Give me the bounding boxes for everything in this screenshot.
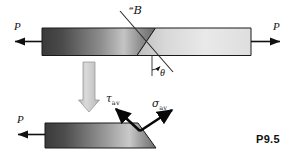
mechanics-figure-svg [0, 0, 295, 159]
label-tau-av: τav [106, 93, 120, 107]
top-bar-right-segment [137, 28, 251, 56]
bottom-bar-segment [45, 123, 156, 148]
label-theta: θ [160, 68, 165, 78]
label-force-right-top: P [273, 21, 280, 32]
label-force-left-top: P [14, 21, 21, 32]
label-section-plane: ᵊB [129, 5, 142, 17]
normal-stress-arrow [140, 110, 172, 131]
theta-arc [152, 67, 160, 70]
label-sigma-av: σav [152, 98, 167, 112]
figure-tag: P9.5 [256, 133, 280, 145]
label-force-left-bottom: P [17, 114, 24, 125]
tau-subscript: av [112, 99, 120, 107]
transition-block-arrow [79, 62, 100, 112]
figure-p9-5: P P ᵊB θ τav σav P P9.5 [0, 0, 295, 159]
sigma-subscript: av [159, 104, 167, 112]
